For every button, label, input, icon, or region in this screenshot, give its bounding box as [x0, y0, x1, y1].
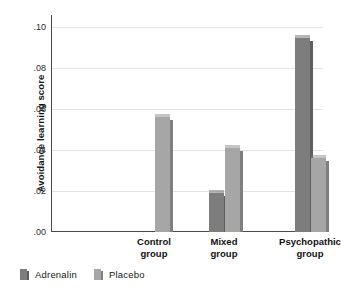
bar-side-shading — [326, 161, 329, 232]
legend-item-placebo: Placebo — [94, 269, 145, 280]
gridline — [52, 191, 323, 192]
plot-area: .00.02.04.06.08.10 — [51, 15, 323, 232]
y-tick-label: .06 — [33, 104, 46, 114]
bar-face — [295, 38, 310, 232]
bar-adrenalin-mixed-group — [209, 193, 224, 232]
y-tick-label: .04 — [33, 145, 46, 155]
bar-placebo-control-group — [155, 117, 170, 232]
bar-top-shading — [209, 190, 224, 193]
bar-top-shading — [155, 114, 170, 117]
legend-item-adrenalin: Adrenalin — [20, 269, 77, 280]
bar-placebo-psychopathic-group — [311, 158, 326, 232]
bar-top-shading — [225, 145, 240, 148]
gridline — [52, 68, 323, 69]
bar-face — [209, 193, 224, 232]
legend-swatch-face — [94, 269, 101, 280]
bar-face — [225, 148, 240, 232]
x-category-label-line: Control — [137, 236, 171, 248]
x-category-label: Controlgroup — [137, 236, 171, 260]
x-category-label-line: group — [211, 248, 238, 260]
chart-legend: AdrenalinPlacebo — [20, 269, 145, 280]
legend-swatch-icon — [20, 269, 29, 280]
x-category-label: Psychopathicgroup — [279, 236, 341, 260]
bar-top-shading — [311, 155, 326, 158]
legend-swatch-side — [101, 271, 103, 280]
gridline — [52, 109, 323, 110]
bar-face — [155, 117, 170, 232]
bar-placebo-mixed-group — [225, 148, 240, 232]
bar-side-shading — [240, 151, 243, 232]
y-tick-label: .10 — [33, 22, 46, 32]
legend-label: Adrenalin — [35, 269, 77, 280]
legend-label: Placebo — [109, 269, 145, 280]
legend-swatch-icon — [94, 269, 103, 280]
x-category-label-line: Psychopathic — [279, 236, 341, 248]
bar-top-shading — [295, 35, 310, 38]
bar-face — [311, 158, 326, 232]
x-category-label: Mixedgroup — [211, 236, 238, 260]
bar-side-shading — [170, 120, 173, 232]
bar-adrenalin-psychopathic-group — [295, 38, 310, 232]
legend-swatch-face — [20, 269, 27, 280]
y-tick-label: .08 — [33, 63, 46, 73]
gridline — [52, 150, 323, 151]
x-category-label-line: group — [279, 248, 341, 260]
legend-swatch-side — [27, 271, 29, 280]
y-tick-label: .02 — [33, 186, 46, 196]
x-category-label-line: group — [137, 248, 171, 260]
gridline — [52, 232, 323, 233]
gridline — [52, 27, 323, 28]
y-axis-line — [51, 15, 52, 232]
y-tick-label: .00 — [33, 227, 46, 237]
x-category-label-line: Mixed — [211, 236, 238, 248]
